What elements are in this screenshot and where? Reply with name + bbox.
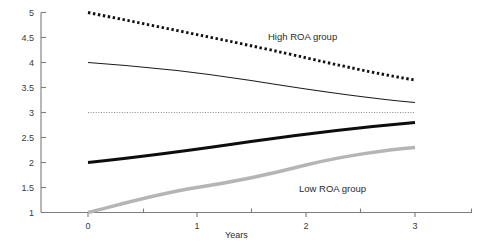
y-tick-label-3-5: 3.5 — [6, 83, 34, 93]
y-tick-label-3: 3 — [6, 108, 34, 118]
annotation-low-roa-group: Low ROA group — [299, 183, 366, 194]
x-axis-title: Years — [225, 230, 248, 240]
y-tick-label-1-5: 1.5 — [6, 183, 34, 193]
y-tick-label-2: 2 — [6, 158, 34, 168]
y-tick-label-4-5: 4.5 — [6, 33, 34, 43]
x-tick-label-3: 3 — [405, 221, 425, 231]
y-tick-label-4: 4 — [6, 58, 34, 68]
y-tick-label-2-5: 2.5 — [6, 133, 34, 143]
series-line-thick-solid — [88, 123, 415, 163]
x-tick-label-2: 2 — [296, 221, 316, 231]
series-line-high-roa — [88, 13, 415, 81]
y-tick-label-1: 1 — [6, 208, 34, 218]
annotation-high-roa-group: High ROA group — [268, 31, 337, 42]
x-tick-label-1: 1 — [187, 221, 207, 231]
y-tick-label-5: 5 — [6, 8, 34, 18]
chart-plot-area — [0, 0, 486, 246]
x-tick-label-0: 0 — [78, 221, 98, 231]
chart-container: 5 4.5 4 3.5 3 2.5 2 1.5 1 0 1 2 3 Years … — [0, 0, 486, 246]
series-line-thin-solid — [88, 63, 415, 103]
y-axis-ticks — [41, 13, 46, 213]
